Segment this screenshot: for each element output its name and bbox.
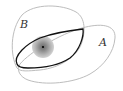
region-a-curve (18, 25, 115, 83)
label-a: A (98, 36, 107, 49)
label-b: B (19, 18, 28, 31)
point-dot (42, 46, 44, 48)
diagram-canvas: B A (0, 0, 123, 91)
